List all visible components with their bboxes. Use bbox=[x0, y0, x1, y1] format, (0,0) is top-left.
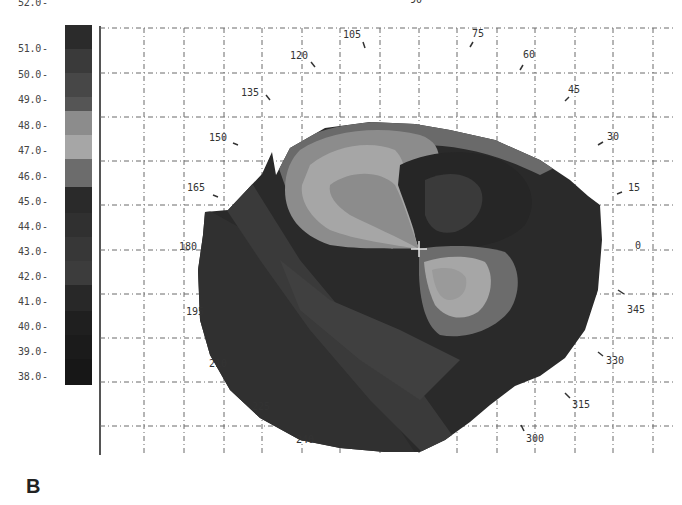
angle-label-330: 330 bbox=[606, 355, 624, 366]
colorbar-tick-label: 45.0 bbox=[18, 196, 48, 207]
angle-label-240: 240 bbox=[296, 434, 314, 445]
angle-label-165: 165 bbox=[187, 182, 205, 193]
angle-label-30: 30 bbox=[607, 131, 619, 142]
angle-label-75: 75 bbox=[472, 28, 484, 39]
angle-label-120: 120 bbox=[290, 50, 308, 61]
angle-label-210: 210 bbox=[209, 358, 227, 369]
colorbar bbox=[65, 25, 92, 385]
colorbar-tick-label: 40.0 bbox=[18, 321, 48, 332]
angle-label-15: 15 bbox=[628, 182, 640, 193]
colorbar-tick-label: 47.0 bbox=[18, 145, 48, 156]
colorbar-tick-label: 48.0 bbox=[18, 120, 48, 131]
angle-label-225: 225 bbox=[252, 401, 270, 412]
colorbar-tick-label: 51.0 bbox=[18, 43, 48, 54]
angle-label-180: 180 bbox=[179, 241, 197, 252]
topography-figure: 52.0 51.0 50.0 49.0 48.0 47.0 46.0 45.0 … bbox=[0, 0, 682, 505]
angle-label-150: 150 bbox=[209, 132, 227, 143]
colorbar-tick-label: 41.0 bbox=[18, 296, 48, 307]
colorbar-tick-label: 43.0 bbox=[18, 246, 48, 257]
panel-label: B bbox=[26, 475, 40, 498]
angle-label-195: 195 bbox=[186, 306, 204, 317]
angle-label-45: 45 bbox=[568, 84, 580, 95]
colorbar-tick-label: 46.0 bbox=[18, 171, 48, 182]
angle-label-135: 135 bbox=[241, 87, 259, 98]
colorbar-tick-label: 49.0 bbox=[18, 94, 48, 105]
colorbar-tick-label: 38.0 bbox=[18, 371, 48, 382]
colorbar-tick-label: 50.0 bbox=[18, 69, 48, 80]
angle-label-0: 0 bbox=[635, 240, 641, 251]
angle-label-90: 90 bbox=[410, 0, 422, 5]
topography-plot bbox=[0, 0, 682, 505]
colorbar-tick-label: 42.0 bbox=[18, 271, 48, 282]
angle-label-315: 315 bbox=[572, 399, 590, 410]
colorbar-tick-label: 39.0 bbox=[18, 346, 48, 357]
angle-label-345: 345 bbox=[627, 304, 645, 315]
angle-label-105: 105 bbox=[343, 29, 361, 40]
colorbar-tick-label: 52.0 bbox=[18, 0, 48, 8]
angle-label-300: 300 bbox=[526, 433, 544, 444]
colorbar-tick-label: 44.0 bbox=[18, 221, 48, 232]
angle-label-60: 60 bbox=[523, 49, 535, 60]
